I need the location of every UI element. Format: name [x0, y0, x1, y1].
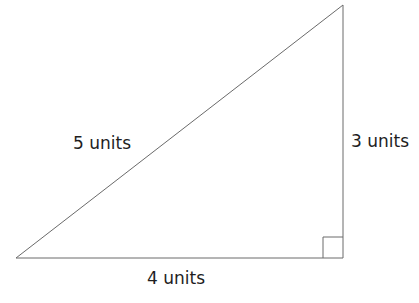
vertical-leg-label: 3 units [351, 133, 409, 150]
right-triangle [16, 5, 343, 258]
right-angle-marker [323, 237, 343, 258]
triangle-diagram [0, 0, 419, 303]
hypotenuse-label: 5 units [73, 135, 131, 152]
horizontal-leg-label: 4 units [147, 270, 205, 287]
